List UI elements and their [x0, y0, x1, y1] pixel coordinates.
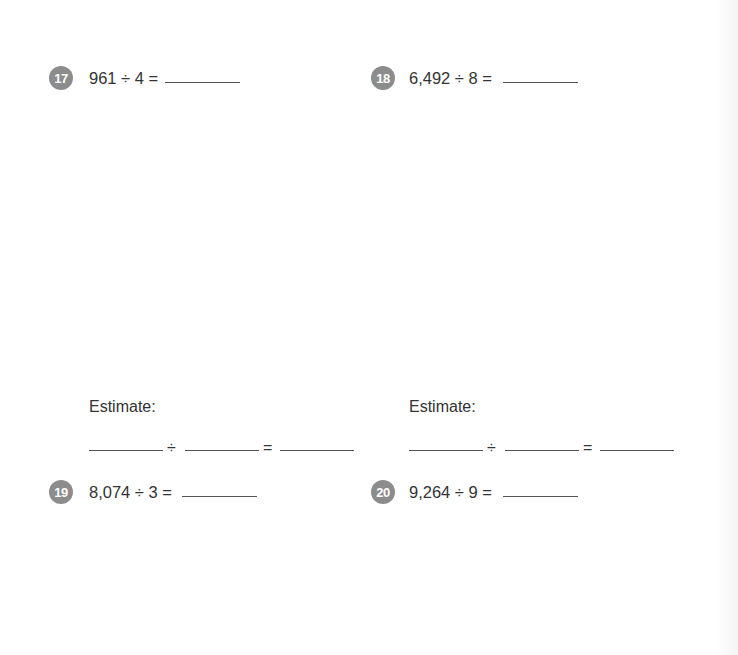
problem-expression: 8,074 ÷ 3 = — [89, 482, 172, 502]
equals-symbol: = — [583, 438, 592, 458]
problem-number-badge: 18 — [371, 66, 395, 90]
problem-number-badge: 17 — [49, 66, 73, 90]
estimate-dividend-blank[interactable] — [89, 450, 163, 451]
estimate-divisor-blank[interactable] — [185, 450, 259, 451]
problem-expression: 9,264 ÷ 9 = — [409, 482, 492, 502]
estimate-divisor-blank[interactable] — [505, 450, 579, 451]
estimate-label: Estimate: — [89, 397, 156, 417]
estimate-dividend-blank[interactable] — [409, 450, 483, 451]
problem-number-badge: 20 — [371, 480, 395, 504]
divide-symbol: ÷ — [487, 438, 496, 458]
estimate-label: Estimate: — [409, 397, 476, 417]
page-edge-shadow — [716, 0, 738, 655]
answer-blank[interactable] — [503, 82, 578, 83]
answer-blank[interactable] — [182, 496, 257, 497]
answer-blank[interactable] — [503, 496, 578, 497]
estimate-quotient-blank[interactable] — [600, 450, 674, 451]
divide-symbol: ÷ — [167, 438, 176, 458]
problem-number-badge: 19 — [49, 480, 73, 504]
problem-expression: 6,492 ÷ 8 = — [409, 68, 492, 88]
problem-expression: 961 ÷ 4 = — [89, 68, 158, 88]
answer-blank[interactable] — [165, 82, 240, 83]
estimate-quotient-blank[interactable] — [280, 450, 354, 451]
equals-symbol: = — [263, 438, 272, 458]
